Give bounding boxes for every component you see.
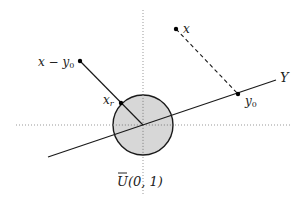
label-Y: Y: [280, 70, 290, 85]
label-disk: U(0, 1): [117, 174, 163, 189]
label-y0: y0: [244, 94, 257, 109]
difference-segment: [80, 61, 143, 125]
point-y0: [236, 92, 240, 96]
point-x: [174, 27, 178, 31]
label-x: x: [183, 22, 190, 36]
projection-dashed-segment: [176, 29, 238, 94]
label-x-minus-y0: x − y0: [38, 55, 74, 70]
point-x-minus-y0: [78, 59, 82, 63]
diagram-canvas: x y0 x − y0 xr Y U(0, 1): [0, 0, 304, 199]
point-x-r: [119, 101, 123, 105]
